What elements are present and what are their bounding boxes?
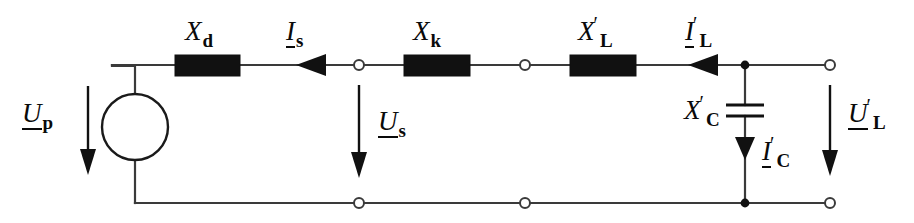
label-line-current: I′L xyxy=(685,18,712,48)
label-source-current-base: I xyxy=(286,18,295,48)
capacitor-symbol xyxy=(726,105,764,116)
node-open-top-us xyxy=(354,60,364,70)
node-open-bottom-mid xyxy=(520,198,530,208)
label-load-voltage-sub: L xyxy=(873,113,886,132)
circuit-schematic-canvas xyxy=(0,0,914,223)
label-bus-voltage-sub: s xyxy=(399,121,406,140)
voltage-source-symbol xyxy=(102,94,168,160)
label-short-circuit-reactance-sub: k xyxy=(431,31,442,50)
label-source-current: Is xyxy=(286,18,303,48)
label-source-voltage-sub: p xyxy=(43,113,54,132)
label-short-circuit-reactance-base: X xyxy=(413,18,430,45)
label-shunt-capacitance-sub: C xyxy=(706,110,720,129)
label-line-reactance-prime: ′ xyxy=(594,14,598,34)
wire-source-top-lead xyxy=(112,65,135,94)
node-open-top-right xyxy=(825,60,835,70)
label-capacitor-current-prime: ′ xyxy=(770,134,774,154)
label-source-current-sub: s xyxy=(296,31,303,50)
label-capacitor-current: I′C xyxy=(762,138,790,168)
label-short-circuit-reactance: Xk xyxy=(413,18,441,45)
label-load-voltage-prime: ′ xyxy=(867,96,871,116)
label-load-voltage-base: U xyxy=(848,100,868,130)
wire-network xyxy=(112,65,830,203)
label-shunt-capacitance-base: X xyxy=(684,97,701,124)
label-shunt-capacitance: X′C xyxy=(684,97,720,124)
label-capacitor-current-sub: C xyxy=(776,151,790,170)
label-bus-voltage: Us xyxy=(378,108,406,138)
label-shunt-capacitance-prime: ′ xyxy=(700,93,704,113)
voltage-arrow-up xyxy=(80,86,96,175)
label-line-current-prime: ′ xyxy=(693,14,697,34)
label-sync-reactance-sub: d xyxy=(203,31,214,50)
label-sync-reactance-base: X xyxy=(185,18,202,45)
current-arrow-ic-prime xyxy=(735,137,755,160)
label-sync-reactance: Xd xyxy=(185,18,213,45)
label-line-current-sub: L xyxy=(699,31,712,50)
node-open-bottom-right xyxy=(825,198,835,208)
label-line-reactance-sub: L xyxy=(600,31,613,50)
label-load-voltage: U′L xyxy=(848,100,886,130)
label-source-voltage: Up xyxy=(22,100,53,130)
node-junction-top-capacitor xyxy=(741,61,750,70)
reactance-box-xk xyxy=(404,55,470,76)
circuit-diagram: Up Xd Is Xk Us X′L I′L X′C I′C U′L xyxy=(0,0,914,223)
node-junction-bottom-capacitor xyxy=(741,199,750,208)
current-arrow-is xyxy=(296,54,326,76)
current-arrow-il-prime xyxy=(688,54,718,76)
label-bus-voltage-base: U xyxy=(378,108,398,138)
node-open-bottom-us xyxy=(354,198,364,208)
reactance-box-xd xyxy=(175,55,240,76)
voltage-arrow-ul-prime xyxy=(822,85,838,176)
label-line-reactance: X′L xyxy=(578,18,613,45)
node-open-top-mid xyxy=(520,60,530,70)
label-line-reactance-base: X xyxy=(578,18,595,45)
voltage-arrow-us xyxy=(351,85,367,178)
label-source-voltage-base: U xyxy=(22,100,42,130)
reactance-box-xl-prime xyxy=(570,55,636,76)
